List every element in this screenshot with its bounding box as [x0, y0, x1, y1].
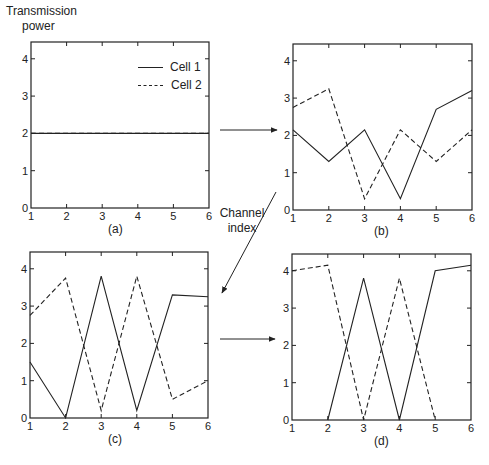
x-tick-label: 4 — [397, 212, 403, 224]
x-tick-label: 5 — [169, 420, 175, 432]
chart-canvas: 1234560123412345601234123456012341234560… — [0, 0, 489, 465]
y-tick-label: 1 — [21, 375, 27, 387]
y-tick-label: 3 — [284, 92, 290, 104]
arrows-layer — [220, 130, 277, 339]
x-tick-label: 6 — [206, 210, 212, 222]
series-cell2 — [292, 265, 435, 420]
panel-b: 12345601234 — [284, 44, 475, 224]
y-tick-label: 0 — [22, 202, 28, 214]
plot-frame — [30, 252, 208, 418]
series-cell2 — [293, 89, 472, 199]
plot-frame — [293, 44, 472, 210]
y-tick-label: 1 — [283, 377, 289, 389]
series-cell1 — [293, 91, 472, 199]
plot-frame — [31, 42, 209, 208]
y-tick-label: 4 — [21, 263, 27, 275]
x-tick-label: 6 — [468, 422, 474, 434]
x-tick-label: 1 — [28, 210, 34, 222]
x-tick-label: 3 — [98, 420, 104, 432]
y-tick-label: 4 — [284, 55, 290, 67]
x-tick-label: 2 — [63, 420, 69, 432]
panel-c: 12345601234 — [21, 252, 211, 432]
panel-a: 12345601234 — [22, 42, 212, 222]
y-tick-label: 3 — [21, 300, 27, 312]
x-tick-label: 1 — [289, 422, 295, 434]
y-tick-label: 3 — [283, 302, 289, 314]
y-tick-label: 0 — [283, 414, 289, 426]
y-tick-label: 2 — [283, 339, 289, 351]
x-tick-label: 4 — [135, 210, 141, 222]
y-tick-label: 0 — [21, 412, 27, 424]
y-tick-label: 2 — [284, 129, 290, 141]
x-tick-label: 2 — [326, 212, 332, 224]
panel-d: 12345601234 — [283, 254, 474, 434]
y-tick-label: 0 — [284, 204, 290, 216]
y-tick-label: 1 — [22, 165, 28, 177]
x-tick-label: 3 — [362, 212, 368, 224]
x-tick-label: 3 — [361, 422, 367, 434]
x-tick-label: 4 — [134, 420, 140, 432]
series-cell1 — [30, 276, 208, 418]
arrow-b-to-c — [222, 192, 276, 293]
x-tick-label: 4 — [396, 422, 402, 434]
y-tick-label: 2 — [21, 337, 27, 349]
plot-frame — [292, 254, 471, 420]
x-tick-label: 1 — [27, 420, 33, 432]
panels-layer: 1234560123412345601234123456012341234560… — [21, 42, 475, 434]
y-tick-label: 2 — [22, 127, 28, 139]
y-tick-label: 4 — [283, 265, 289, 277]
x-tick-label: 6 — [205, 420, 211, 432]
y-tick-label: 3 — [22, 90, 28, 102]
x-tick-label: 2 — [325, 422, 331, 434]
x-tick-label: 2 — [64, 210, 70, 222]
x-tick-label: 5 — [432, 422, 438, 434]
x-tick-label: 5 — [170, 210, 176, 222]
x-tick-label: 3 — [99, 210, 105, 222]
y-tick-label: 4 — [22, 53, 28, 65]
x-tick-label: 5 — [433, 212, 439, 224]
series-cell1 — [328, 265, 471, 420]
y-tick-label: 1 — [284, 167, 290, 179]
x-tick-label: 6 — [469, 212, 475, 224]
x-tick-label: 1 — [290, 212, 296, 224]
